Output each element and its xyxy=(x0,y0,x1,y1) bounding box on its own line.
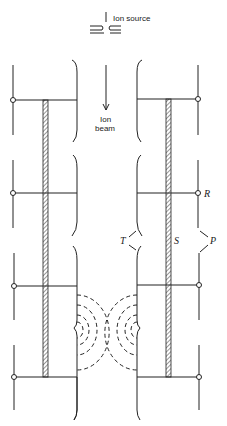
terminal-circles xyxy=(11,97,202,380)
label-t: T xyxy=(120,235,127,246)
right-electrode-tubes xyxy=(137,60,142,420)
t-pointer-arrows xyxy=(129,231,136,250)
label-r: R xyxy=(203,188,210,199)
label-p: P xyxy=(209,235,216,246)
ion-source-label: Ion source xyxy=(113,14,151,23)
right-support-bar xyxy=(166,99,171,377)
p-pointer-arrows xyxy=(200,231,208,252)
label-s: S xyxy=(174,235,179,246)
ion-beam-arrow-icon xyxy=(103,65,109,110)
left-support-bar xyxy=(43,100,48,377)
ion-beam-label-2: beam xyxy=(95,124,115,133)
left-outer-rails xyxy=(13,65,14,410)
right-outer-rails xyxy=(198,65,199,410)
electric-field-lines xyxy=(77,295,137,370)
ion-accelerator-diagram: Ion source Ion beam R S T P xyxy=(0,0,227,426)
left-electrode-tubes xyxy=(72,60,77,420)
ion-beam-label-1: Ion xyxy=(100,115,111,124)
